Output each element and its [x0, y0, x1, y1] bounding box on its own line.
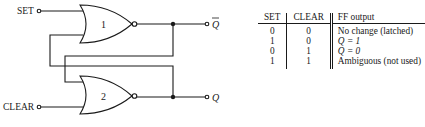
clear-label: CLEAR — [3, 102, 35, 112]
cell-set: 1 — [258, 36, 287, 46]
junction-dot-top — [171, 22, 175, 26]
header-ff-output: FF output — [331, 13, 425, 24]
gate-2-inverter-bubble — [132, 94, 137, 99]
cell-clear: 1 — [287, 46, 331, 56]
q-bar-output-label: Q — [212, 19, 220, 30]
cell-set: 0 — [258, 46, 287, 56]
table-row: 0 1 Q = 0 — [258, 46, 425, 56]
clear-input-terminal — [37, 105, 41, 109]
cell-output: Q = 0 — [331, 46, 425, 56]
cell-output: No change (latched) — [331, 24, 425, 37]
cell-clear: 0 — [287, 36, 331, 46]
table-row: 1 1 Ambiguous (not used) — [258, 56, 425, 69]
cell-clear: 0 — [287, 24, 331, 37]
header-clear: CLEAR — [287, 13, 331, 24]
gate-1-inverter-bubble — [132, 22, 137, 27]
cell-output: Q = 1 — [331, 36, 425, 46]
table-row: 0 0 No change (latched) — [258, 24, 425, 37]
q-bar-terminal — [205, 22, 209, 26]
nor-gate-1 — [80, 5, 132, 43]
sr-latch-circuit: SET CLEAR 1 2 Q Q — [0, 0, 240, 127]
cell-set: 0 — [258, 24, 287, 37]
cell-set: 1 — [258, 56, 287, 69]
gate-2-label: 2 — [101, 91, 106, 102]
cell-output: Ambiguous (not used) — [331, 56, 425, 69]
q-output-label: Q — [212, 92, 220, 103]
set-input-terminal — [37, 9, 41, 13]
cell-clear: 1 — [287, 56, 331, 69]
feedback-wire-to-gate-1 — [50, 35, 173, 97]
truth-table: SET CLEAR FF output 0 0 No change (latch… — [258, 13, 425, 69]
nor-gate-2 — [80, 76, 132, 114]
set-label: SET — [17, 6, 34, 16]
truth-table-header: SET CLEAR FF output — [258, 13, 425, 24]
gate-1-label: 1 — [101, 19, 106, 30]
header-set: SET — [258, 13, 287, 24]
table-row: 1 0 Q = 1 — [258, 36, 425, 46]
q-terminal — [205, 95, 209, 99]
junction-dot-bottom — [171, 95, 175, 99]
